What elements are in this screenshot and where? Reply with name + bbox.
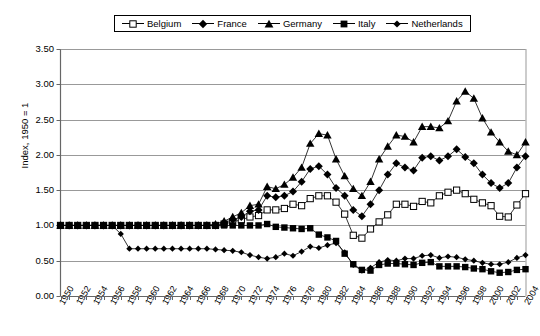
legend-marker-filled-diamond-icon [192,19,214,29]
legend-label-germany: Germany [283,19,322,29]
legend-label-italy: Italy [358,19,375,29]
legend-item-italy[interactable]: Italy [333,19,375,29]
legend-label-belgium: Belgium [147,19,181,29]
legend-label-france: France [217,19,247,29]
legend-marker-filled-square-icon [333,19,355,29]
legend-marker-filled-diamond-small-icon [386,19,408,29]
chart-container: Belgium France Germany Italy [0,0,540,336]
legend-item-france[interactable]: France [192,19,247,29]
legend-marker-filled-triangle-icon [258,19,280,29]
plot-area [0,0,540,336]
legend-item-belgium[interactable]: Belgium [122,19,181,29]
legend-item-netherlands[interactable]: Netherlands [386,19,462,29]
legend-marker-open-square-icon [122,19,144,29]
legend-item-germany[interactable]: Germany [258,19,322,29]
legend-label-netherlands: Netherlands [411,19,462,29]
chart-legend: Belgium France Germany Italy [114,15,471,32]
